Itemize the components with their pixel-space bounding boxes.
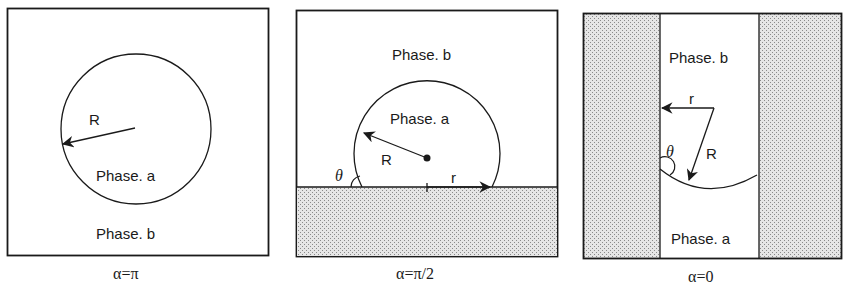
- pore-radius-label: r: [689, 90, 694, 107]
- radius-label: R: [381, 151, 392, 168]
- solid-wall-left: [584, 14, 660, 258]
- panel-caption: α=0: [688, 268, 713, 285]
- panel-alpha-pi-half: Phase. b Phase. a R θ r α=π/2: [297, 11, 558, 283]
- meniscus: [660, 169, 757, 189]
- contact-angle-label: θ: [335, 167, 343, 184]
- phase-b-label: Phase. b: [392, 46, 451, 63]
- radius-label: R: [89, 111, 100, 128]
- radius-label: R: [706, 145, 717, 162]
- radius-arrow: [689, 108, 714, 180]
- contact-radius-label: r: [451, 169, 456, 186]
- panel-caption: α=π: [113, 265, 138, 282]
- solid-wall-right: [759, 14, 842, 258]
- figure-canvas: R Phase. a Phase. b α=π Phase. b Phase. …: [0, 0, 843, 286]
- phase-a-label: Phase. a: [96, 167, 156, 184]
- panel-caption: α=π/2: [396, 265, 434, 282]
- phase-a-label: Phase. a: [390, 110, 450, 127]
- panel-frame: [8, 9, 269, 256]
- panel-alpha-pi: R Phase. a Phase. b α=π: [8, 9, 269, 283]
- panel-alpha-zero: Phase. b r θ R Phase. a α=0: [584, 14, 843, 286]
- solid-substrate: [297, 187, 557, 256]
- phase-b-label: Phase. b: [96, 225, 155, 242]
- contact-angle-label: θ: [666, 143, 674, 160]
- phase-a-label: Phase. a: [671, 230, 731, 247]
- phase-b-label: Phase. b: [669, 49, 728, 66]
